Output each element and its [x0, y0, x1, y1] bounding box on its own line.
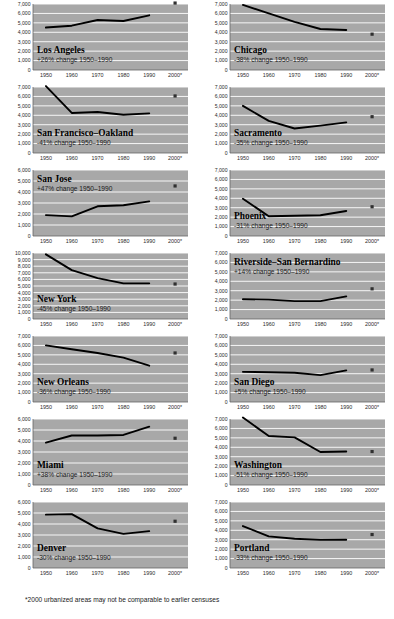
data-point-marker-2000	[370, 533, 373, 536]
x-axis-tick-label: 2000*	[168, 570, 183, 576]
y-axis-tick-label: 7,000	[215, 84, 228, 90]
x-axis-tick-label: 1970	[289, 155, 301, 161]
y-axis-tick-label: 5,000	[18, 427, 31, 433]
data-point-marker-2000	[370, 205, 373, 208]
chart-title: San Diego	[234, 377, 275, 387]
y-axis-tick-label: 5,000	[18, 283, 31, 289]
x-axis-tick-label: 1980	[117, 487, 129, 493]
y-axis-tick-label: 0	[28, 150, 31, 156]
y-axis-tick-label: 0	[225, 316, 228, 322]
y-axis-tick-label: 4,000	[215, 278, 228, 284]
y-axis-tick-label: 1,000	[215, 140, 228, 146]
x-axis-tick-label: 1980	[314, 238, 326, 244]
chart-panel: 01,0002,0003,0004,0005,0006,000195019601…	[0, 415, 197, 498]
x-axis-tick-label: 1970	[289, 72, 301, 78]
x-axis-tick-label: 1990	[340, 72, 352, 78]
x-axis-tick-label: 2000*	[365, 487, 380, 493]
x-axis-tick-label: 1980	[117, 72, 129, 78]
line-chart: 01,0002,0003,0004,0005,0006,000195019601…	[0, 415, 197, 498]
footnote: *2000 urbanized areas may not be compara…	[25, 596, 219, 603]
y-axis-tick-label: 2,000	[18, 211, 31, 217]
chart-title: San Francisco–Oakland	[37, 128, 134, 138]
y-axis-tick-label: 3,000	[215, 371, 228, 377]
chart-title: Riverside–San Bernardino	[234, 257, 341, 267]
y-axis-tick-label: 0	[28, 399, 31, 405]
y-axis-tick-label: 2,000	[18, 543, 31, 549]
y-axis-tick-label: 5,000	[215, 352, 228, 358]
x-axis-tick-label: 1970	[92, 570, 104, 576]
x-axis-tick-label: 1970	[92, 238, 104, 244]
chart-title: New Orleans	[37, 377, 89, 387]
x-axis-tick-label: 1990	[143, 487, 155, 493]
chart-panel: 01,0002,0003,0004,0005,0006,0007,0001950…	[197, 498, 394, 581]
data-point-marker-2000	[370, 368, 373, 371]
chart-panel: 01,0002,0003,0004,0005,0006,0007,0008,00…	[0, 249, 197, 332]
y-axis-tick-label: 5,000	[215, 103, 228, 109]
y-axis-tick-label: 7,000	[215, 250, 228, 256]
y-axis-tick-label: 1,000	[18, 222, 31, 228]
y-axis-tick-label: 5,000	[18, 178, 31, 184]
y-axis-tick-label: 6,000	[18, 167, 31, 173]
x-axis-tick-label: 1950	[40, 321, 52, 327]
x-axis-tick-label: 1960	[66, 487, 78, 493]
y-axis-tick-label: 1,000	[18, 309, 31, 315]
x-axis-tick-label: 2000*	[168, 404, 183, 410]
x-axis-tick-label: 1970	[289, 570, 301, 576]
y-axis-tick-label: 2,000	[215, 546, 228, 552]
y-axis-tick-label: 6,000	[215, 425, 228, 431]
x-axis-tick-label: 1950	[237, 321, 249, 327]
data-point-marker-2000	[173, 520, 176, 523]
y-axis-tick-label: 7,000	[215, 499, 228, 505]
x-axis-tick-label: 1960	[66, 404, 78, 410]
x-axis-tick-label: 1990	[340, 404, 352, 410]
y-axis-tick-label: 5,000	[215, 186, 228, 192]
x-axis-tick-label: 1970	[289, 321, 301, 327]
chart-panel: 01,0002,0003,0004,0005,0006,0007,0001950…	[197, 249, 394, 332]
y-axis-tick-label: 7,000	[215, 333, 228, 339]
chart-annotation-percent-change: -45% change 1950–1990	[37, 305, 111, 313]
chart-panel: 01,0002,0003,0004,0005,0006,0007,0001950…	[197, 166, 394, 249]
chart-title: Chicago	[234, 45, 267, 55]
y-axis-tick-label: 2,000	[18, 48, 31, 54]
chart-annotation-percent-change: -36% change 1950–1990	[37, 388, 111, 396]
x-axis-tick-label: 1990	[143, 72, 155, 78]
line-chart: 01,0002,0003,0004,0005,0006,0007,0001950…	[197, 332, 394, 415]
y-axis-tick-label: 7,000	[215, 167, 228, 173]
y-axis-tick-label: 1,000	[215, 223, 228, 229]
y-axis-tick-label: 3,000	[18, 39, 31, 45]
x-axis-tick-label: 1950	[237, 404, 249, 410]
x-axis-tick-label: 1960	[263, 238, 275, 244]
x-axis-tick-label: 1960	[66, 72, 78, 78]
y-axis-tick-label: 6,000	[18, 93, 31, 99]
y-axis-tick-label: 2,000	[215, 214, 228, 220]
y-axis-tick-label: 2,000	[215, 297, 228, 303]
x-axis-tick-label: 1990	[340, 570, 352, 576]
x-axis-tick-label: 1950	[237, 155, 249, 161]
line-chart: 01,0002,0003,0004,0005,0006,0007,0001950…	[197, 166, 394, 249]
x-axis-tick-label: 1970	[289, 238, 301, 244]
chart-annotation-percent-change: -31% change 1950–1990	[234, 222, 308, 230]
y-axis-tick-label: 1,000	[18, 554, 31, 560]
line-chart: 01,0002,0003,0004,0005,0006,0007,0001950…	[0, 332, 197, 415]
y-axis-tick-label: 0	[28, 565, 31, 571]
y-axis-tick-label: 4,000	[215, 527, 228, 533]
chart-annotation-percent-change: +26% change 1950–1990	[37, 56, 113, 64]
y-axis-tick-label: 9,000	[18, 257, 31, 263]
x-axis-tick-label: 1950	[237, 72, 249, 78]
y-axis-tick-label: 2,000	[18, 303, 31, 309]
y-axis-tick-label: 0	[225, 233, 228, 239]
chart-title: Denver	[37, 543, 66, 553]
chart-annotation-percent-change: -38% change 1950–1990	[234, 56, 308, 64]
y-axis-tick-label: 6,000	[215, 10, 228, 16]
x-axis-tick-label: 1950	[237, 238, 249, 244]
y-axis-tick-label: 4,000	[215, 361, 228, 367]
y-axis-tick-label: 6,000	[18, 342, 31, 348]
y-axis-tick-label: 1,000	[18, 57, 31, 63]
chart-panel: 01,0002,0003,0004,0005,0006,0007,0001950…	[197, 332, 394, 415]
x-axis-tick-label: 1950	[40, 487, 52, 493]
chart-annotation-percent-change: -35% change 1950–1990	[234, 139, 308, 147]
y-axis-tick-label: 3,000	[18, 296, 31, 302]
x-axis-tick-label: 1990	[340, 321, 352, 327]
x-axis-tick-label: 1960	[263, 487, 275, 493]
x-axis-tick-label: 1990	[143, 238, 155, 244]
